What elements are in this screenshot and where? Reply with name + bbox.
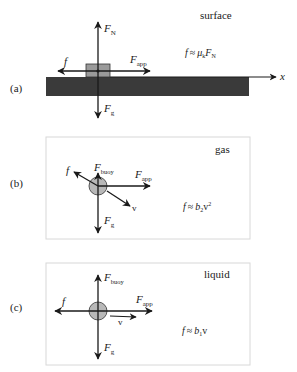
velocity-label: v [132,203,137,213]
normal-force-label: FN [103,22,116,37]
friction-formula-surface: f≈μkFN [185,47,216,59]
panel-c-liquid: (c) liquid Fbuoy Fg f Fapp v f≈b1v [10,263,250,365]
panel-b-gas: (b) gas Fbuoy Fg f Fapp v f≈b2v2 [10,137,250,239]
center-dot [96,69,99,72]
medium-label-surface: surface [200,9,232,21]
ground-surface [46,77,249,96]
panel-label-a: (a) [10,82,23,95]
friction-formula-gas: f≈b2v2 [183,201,211,213]
free-body-diagrams-figure: (a) surface x FN Fg f Fapp f≈μkFN (b) ga… [0,0,297,372]
panel-label-b: (b) [10,177,23,190]
panel-label-c: (c) [10,301,23,314]
panel-a-surface: (a) surface x FN Fg f Fapp f≈μkFN [10,9,285,118]
diagram-canvas: (a) surface x FN Fg f Fapp f≈μkFN (b) ga… [0,0,297,372]
applied-force-label: Fapp [129,53,147,68]
x-axis-label: x [279,70,285,82]
medium-label-gas: gas [215,143,230,155]
friction-force-label: f [64,55,69,67]
medium-label-liquid: liquid [204,268,230,280]
gravity-force-label: Fg [103,102,115,117]
velocity-label: v [118,317,123,327]
